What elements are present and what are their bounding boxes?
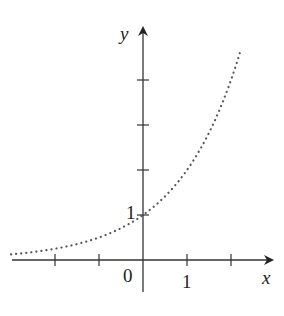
origin-label: 0: [123, 266, 133, 285]
exponential-curve: [11, 53, 240, 254]
y-tick-label-1: 1: [126, 203, 136, 222]
plot-area: [0, 0, 284, 316]
x-axis-label: x: [262, 268, 270, 287]
y-axis-label: y: [120, 24, 128, 43]
x-tick-label-1: 1: [182, 272, 192, 291]
